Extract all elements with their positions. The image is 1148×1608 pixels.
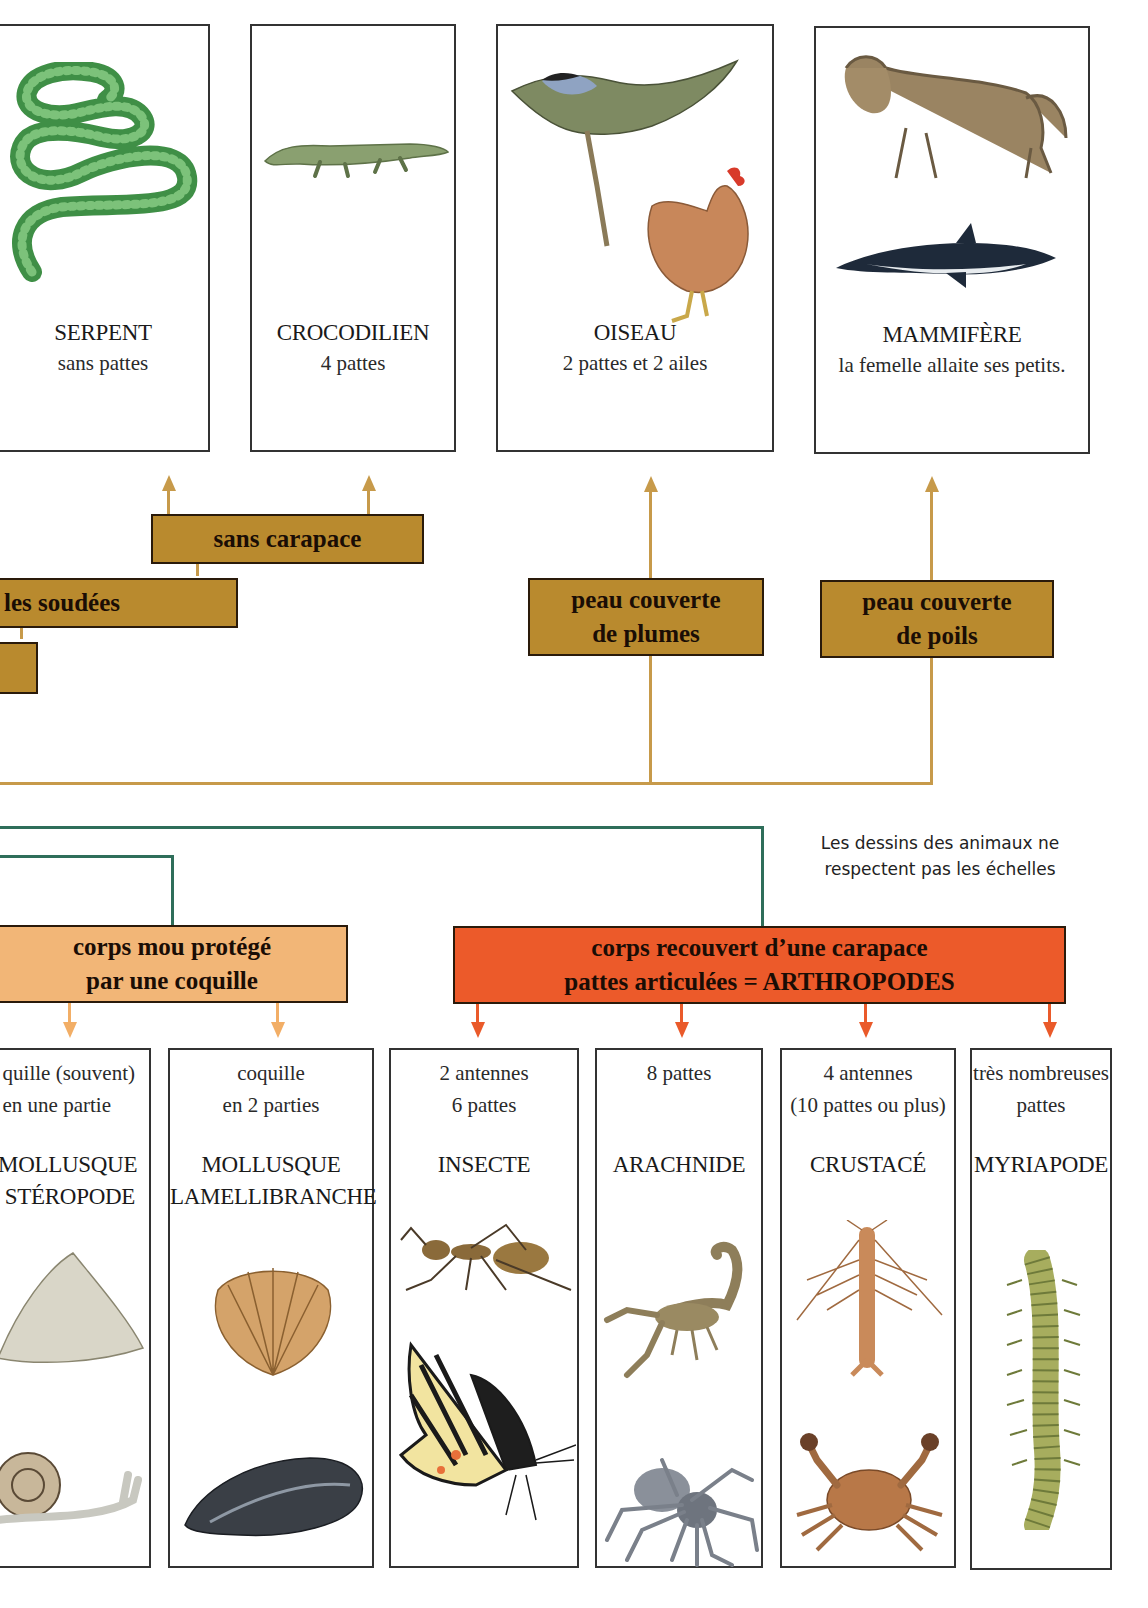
card-serpent: SERPENT sans pattes	[0, 24, 210, 452]
trait-sans-carapace: sans carapace	[151, 514, 424, 564]
card-subtitle: 2 pattes et 2 ailes	[498, 348, 772, 379]
trait-label: par une coquille	[73, 964, 271, 998]
card-title: MOLLUSQUE	[170, 1152, 372, 1178]
note-line: Les dessins des animaux ne	[790, 830, 1090, 856]
card-title: MAMMIFÈRE	[816, 322, 1088, 348]
card-desc: en 2 parties	[170, 1090, 372, 1121]
arrow-down-arachnide	[675, 1022, 689, 1038]
millipede-icon	[992, 1250, 1092, 1530]
trait-label: pattes articulées = ARTHROPODES	[564, 965, 954, 999]
branch-line-mollusques	[0, 855, 174, 858]
card-desc: très nombreuses	[972, 1058, 1110, 1089]
card-mammifere: MAMMIFÈRE la femelle allaite ses petits.	[814, 26, 1090, 454]
snake-icon	[2, 62, 202, 282]
branch-line	[761, 826, 764, 926]
card-desc: pattes	[972, 1090, 1110, 1121]
card-title: MYRIAPODE	[972, 1152, 1110, 1178]
card-desc: coquille	[170, 1058, 372, 1089]
trait-plumes: peau couvertede plumes	[528, 578, 764, 656]
card-desc: 8 pattes	[597, 1058, 761, 1089]
trait-label: peau couverte	[862, 585, 1011, 619]
limpet-icon	[0, 1248, 148, 1368]
card-desc: 2 antennes	[391, 1058, 577, 1089]
trait-label: corps mou protégé	[73, 930, 271, 964]
card-title: CRUSTACÉ	[782, 1152, 954, 1178]
mussel-icon	[180, 1450, 370, 1540]
trait-label: de plumes	[571, 617, 720, 651]
card-desc: en une partie	[0, 1090, 149, 1121]
branch-line	[476, 1004, 479, 1024]
butterfly-icon	[396, 1335, 576, 1535]
card-title: CROCODILIEN	[252, 320, 454, 346]
branch-baseline-vertebres	[0, 782, 933, 785]
card-arachnide: 8 pattes ARACHNIDE	[595, 1048, 763, 1568]
card-crustace: 4 antennes (10 pattes ou plus) CRUSTACÉ	[780, 1048, 956, 1568]
scorpion-icon	[602, 1235, 762, 1395]
scale-note: Les dessins des animaux ne respectent pa…	[790, 830, 1090, 882]
card-subtitle: la femelle allaite ses petits.	[816, 350, 1088, 381]
note-line: respectent pas les échelles	[790, 856, 1090, 882]
trait-poils: peau couvertede poils	[820, 580, 1054, 658]
branch-line	[367, 490, 370, 514]
ant-icon	[396, 1220, 576, 1300]
arrow-down-lamellibranche	[271, 1022, 285, 1038]
crab-icon	[787, 1430, 952, 1560]
card-crocodilien: CROCODILIEN 4 pattes	[250, 24, 456, 452]
card-title: ARACHNIDE	[597, 1152, 761, 1178]
card-desc: (10 pattes ou plus)	[782, 1090, 954, 1121]
card-gasteropode: quille (souvent) en une partie MOLLUSQUE…	[0, 1048, 151, 1568]
trait-arthropodes: corps recouvert d’une carapacepattes art…	[453, 926, 1066, 1004]
card-insecte: 2 antennes 6 pattes INSECTE	[389, 1048, 579, 1568]
arrow-up-crocodilien	[362, 475, 376, 491]
card-myriapode: très nombreuses pattes MYRIAPODE	[970, 1048, 1112, 1570]
card-title: INSECTE	[391, 1152, 577, 1178]
card-title: MOLLUSQUE	[0, 1152, 149, 1178]
branch-line	[680, 1004, 683, 1024]
card-desc: 4 antennes	[782, 1058, 954, 1089]
arrow-down-gasteropode	[63, 1022, 77, 1038]
arrow-down-crustace	[859, 1022, 873, 1038]
spider-icon	[602, 1450, 762, 1570]
trait-partial	[0, 642, 38, 694]
card-title: STÉROPODE	[0, 1184, 149, 1210]
arrow-down-insecte	[471, 1022, 485, 1038]
card-oiseau: OISEAU 2 pattes et 2 ailes	[496, 24, 774, 452]
branch-line	[167, 490, 170, 514]
scallop-icon	[208, 1260, 338, 1380]
card-title: LAMELLIBRANCHE	[170, 1184, 372, 1210]
card-subtitle: sans pattes	[0, 348, 208, 379]
card-lamellibranche: coquille en 2 parties MOLLUSQUE LAMELLIB…	[168, 1048, 374, 1568]
snail-icon	[0, 1440, 148, 1540]
card-desc: 6 pattes	[391, 1090, 577, 1121]
bird-icon	[502, 36, 772, 326]
arrow-up-serpent	[162, 475, 176, 491]
card-subtitle: 4 pattes	[252, 348, 454, 379]
branch-line	[196, 562, 199, 576]
shrimp-icon	[787, 1220, 952, 1380]
trait-soudees: les soudées	[0, 578, 238, 628]
trait-coquille: corps mou protégépar une coquille	[0, 925, 348, 1003]
branch-line	[171, 855, 174, 927]
card-desc: quille (souvent)	[0, 1058, 149, 1089]
arrow-down-myriapode	[1043, 1022, 1057, 1038]
trait-label: sans carapace	[214, 522, 362, 556]
trait-label: les soudées	[4, 586, 120, 620]
trait-label: corps recouvert d’une carapace	[564, 931, 954, 965]
branch-line-invertebres	[0, 826, 764, 829]
mammal-icon	[826, 38, 1086, 298]
branch-line	[1048, 1004, 1051, 1024]
trait-label: de poils	[862, 619, 1011, 653]
branch-line	[864, 1004, 867, 1024]
crocodile-icon	[260, 126, 450, 186]
card-title: SERPENT	[0, 320, 208, 346]
trait-label: peau couverte	[571, 583, 720, 617]
card-title: OISEAU	[498, 320, 772, 346]
